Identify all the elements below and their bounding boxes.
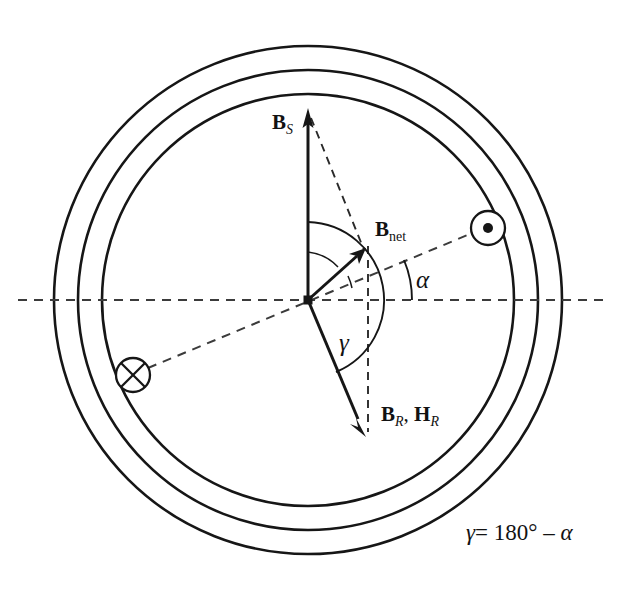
- bnet-to-rotor-axis-arc: [348, 276, 352, 288]
- bs-vector-label: BS: [272, 112, 293, 137]
- diagram-canvas: [0, 0, 634, 590]
- figure-root: BS Bnet BR, HR α γ γ= 180° – α: [0, 0, 634, 590]
- formula-equals: =: [475, 520, 488, 545]
- br-hr-vector-shaft: [308, 300, 358, 419]
- dot-in-circle-center: [483, 223, 493, 233]
- gamma-angle-label: γ: [339, 330, 349, 355]
- formula-alpha: α: [561, 520, 573, 545]
- gamma-relation-formula: γ= 180° – α: [466, 521, 573, 544]
- alpha-angle-arc: [404, 260, 412, 300]
- rotor-center-point: [304, 296, 313, 305]
- alpha-angle-label: α: [416, 267, 429, 292]
- formula-minus: –: [543, 520, 555, 545]
- br-hr-vector-label: BR, HR: [381, 404, 439, 429]
- bs-to-bnet-construction-line: [311, 118, 364, 250]
- formula-gamma: γ: [466, 520, 475, 545]
- br-hr-vector-arrowhead: [350, 418, 366, 437]
- bnet-vector-label: Bnet: [375, 219, 406, 244]
- formula-value: 180°: [494, 520, 538, 545]
- bnet-angle-arc: [308, 252, 338, 267]
